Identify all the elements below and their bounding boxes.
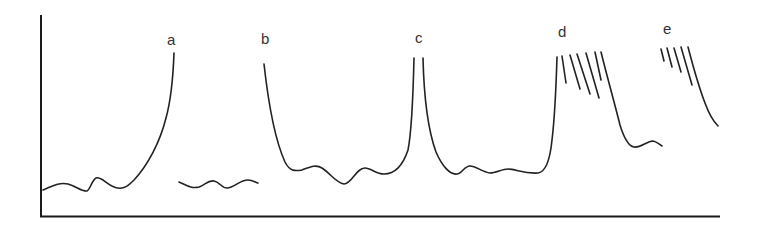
label-a: a	[167, 31, 176, 48]
label-e: e	[663, 20, 671, 37]
curve-d	[601, 52, 662, 147]
spectral-diagram: a b c d e	[0, 0, 758, 228]
label-b: b	[261, 30, 269, 47]
curve-c	[423, 57, 557, 174]
curve-e	[688, 47, 718, 126]
curve-b	[264, 58, 414, 184]
curve-a-segment	[179, 180, 258, 188]
curve-e-hatching	[661, 47, 692, 85]
label-d: d	[558, 23, 566, 40]
curve-a	[43, 53, 174, 191]
curve-labels: a b c d e	[167, 20, 671, 48]
label-c: c	[415, 29, 423, 46]
diagram-canvas: a b c d e	[0, 0, 758, 228]
curve-d-hatching	[562, 52, 601, 98]
